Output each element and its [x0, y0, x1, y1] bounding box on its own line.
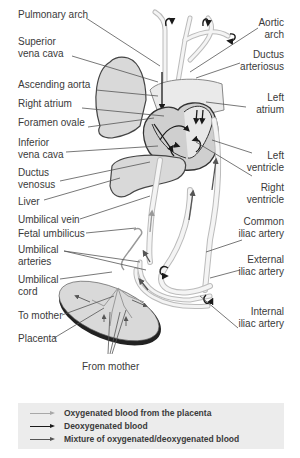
label-line: arteries [18, 256, 59, 268]
label-liver: Liver [18, 196, 40, 208]
label-line: arch [258, 29, 284, 41]
label-umbilical-cord: Umbilicalcord [18, 274, 59, 297]
label-line: Right [247, 182, 284, 194]
label-line: Aortic [258, 17, 284, 29]
label-ascending-aorta: Ascending aorta [18, 79, 90, 91]
label-line: ventricle [247, 162, 284, 174]
label-internal-iliac-artery: Internaliliac artery [238, 306, 284, 329]
label-line: venosus [18, 179, 55, 191]
label-umbilical-vein: Umbilical vein [18, 214, 80, 226]
legend-label: Oxygenated blood from the placenta [64, 408, 211, 418]
label-line: Umbilical [18, 244, 59, 256]
label-left-ventricle: Leftventricle [247, 150, 284, 173]
label-line: atrium [256, 104, 284, 116]
medium-arrow-icon [30, 439, 52, 440]
right-lung [96, 57, 146, 138]
label-line: arteriosus [240, 61, 284, 73]
legend-item-deoxygenated: Deoxygenated blood [18, 421, 284, 433]
label-line: Left [256, 92, 284, 104]
label-fetal-umbilicus: Fetal umbilicus [18, 228, 85, 240]
label-line: iliac artery [238, 228, 284, 240]
label-placenta: Placenta [18, 333, 57, 345]
legend-item-mixture: Mixture of oxygenated/deoxygenated blood [18, 434, 284, 446]
label-line: Umbilical [18, 274, 59, 286]
label-right-atrium: Right atrium [18, 98, 72, 110]
label-common-iliac-artery: Commoniliac artery [238, 216, 284, 239]
legend-label: Deoxygenated blood [64, 421, 148, 431]
liver [110, 155, 186, 197]
label-line: Ductus [18, 167, 55, 179]
label-foramen-ovale: Foramen ovale [18, 117, 85, 129]
label-line: External [238, 254, 284, 266]
label-pulmonary-arch: Pulmonary arch [18, 9, 88, 21]
label-inferior-vena-cava: Inferiorvena cava [18, 137, 64, 160]
label-line: iliac artery [238, 318, 284, 330]
label-line: iliac artery [238, 266, 284, 278]
label-line: Internal [238, 306, 284, 318]
legend-label: Mixture of oxygenated/deoxygenated blood [64, 434, 239, 444]
label-line: Superior [18, 36, 64, 48]
label-superior-vena-cava: Superiorvena cava [18, 36, 64, 59]
label-aortic-arch: Aorticarch [258, 17, 284, 40]
label-line: ventricle [247, 194, 284, 206]
label-from-mother: From mother [82, 361, 139, 373]
label-to-mother: To mother [18, 310, 62, 322]
label-line: vena cava [18, 149, 64, 161]
legend-item-oxygenated: Oxygenated blood from the placenta [18, 408, 284, 420]
light-arrow-icon [30, 413, 52, 414]
label-left-atrium: Leftatrium [256, 92, 284, 115]
legend: Oxygenated blood from the placenta Deoxy… [18, 403, 284, 449]
label-umbilical-arteries: Umbilicalarteries [18, 244, 59, 267]
label-ductus-venosus: Ductusvenosus [18, 167, 55, 190]
label-line: Ductus [240, 49, 284, 61]
label-line: cord [18, 286, 59, 298]
label-right-ventricle: Rightventricle [247, 182, 284, 205]
label-line: Left [247, 150, 284, 162]
dark-arrow-icon [30, 426, 52, 427]
label-line: Inferior [18, 137, 64, 149]
label-ductus-arteriosus: Ductusarteriosus [240, 49, 284, 72]
label-external-iliac-artery: Externaliliac artery [238, 254, 284, 277]
label-line: vena cava [18, 48, 64, 60]
label-line: Common [238, 216, 284, 228]
